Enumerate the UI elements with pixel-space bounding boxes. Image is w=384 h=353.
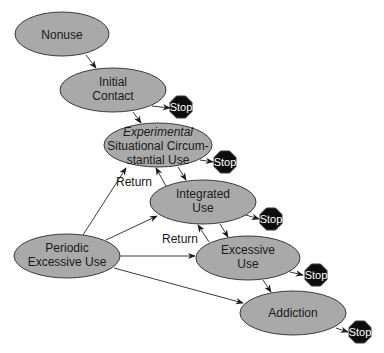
node-experimental-line1: Experimental — [123, 125, 193, 139]
stop-sign-experimental: Stop — [214, 151, 237, 173]
edge-addiction-to-stop — [336, 328, 348, 332]
return-label-integrated-to-experimental: Return — [116, 175, 152, 189]
node-addiction: Addiction — [240, 291, 346, 335]
edge-periodic-to-integrated — [106, 216, 157, 240]
edge-initial-to-stop — [152, 106, 170, 108]
return-label-excessive-to-integrated: Return — [162, 232, 198, 246]
stop-sign-initial: Stop — [170, 96, 193, 118]
node-experimental-line3: stantial Use — [127, 153, 190, 167]
node-periodic-excessive-use: Periodic Excessive Use — [14, 234, 120, 278]
node-nonuse-label: Nonuse — [41, 28, 83, 42]
stop-label: Stop — [170, 101, 193, 113]
edge-initial-to-experimental — [133, 112, 141, 123]
node-excessive-use: Excessive Use — [196, 236, 300, 280]
edge-excessive-to-addiction — [263, 280, 271, 292]
node-addiction-label: Addiction — [268, 306, 317, 320]
stop-label: Stop — [305, 269, 328, 281]
edge-excessive-return-to-integrated — [198, 225, 209, 242]
stop-sign-integrated: Stop — [260, 208, 283, 230]
node-initial-contact-line2: Contact — [92, 89, 134, 103]
node-integrated-use: Integrated Use — [150, 180, 256, 224]
edge-experimental-to-integrated — [178, 167, 186, 180]
stop-sign-addiction: Stop — [349, 321, 372, 343]
node-initial-contact-line1: Initial — [99, 75, 127, 89]
node-initial-contact: Initial Contact — [60, 68, 166, 112]
node-integrated-line2: Use — [192, 201, 214, 215]
edge-excessive-to-stop — [290, 272, 303, 275]
node-nonuse: Nonuse — [15, 12, 109, 56]
edge-integrated-to-excessive — [220, 224, 228, 237]
node-experimental-line2: Situational Circum- — [107, 139, 208, 153]
substance-use-stages-diagram: Nonuse Initial Contact Experimental Situ… — [0, 0, 384, 353]
node-periodic-line1: Periodic — [45, 241, 88, 255]
edge-integrated-to-stop — [246, 215, 259, 219]
edge-nonuse-to-initial — [86, 55, 96, 68]
node-periodic-line2: Excessive Use — [28, 255, 107, 269]
stop-label: Stop — [349, 326, 372, 338]
node-integrated-line1: Integrated — [176, 187, 230, 201]
node-excessive-line2: Use — [237, 257, 259, 271]
stop-label: Stop — [214, 156, 237, 168]
edge-integrated-return-to-experimental — [156, 168, 166, 186]
node-experimental: Experimental Situational Circum- stantia… — [104, 123, 212, 167]
stop-sign-excessive: Stop — [305, 264, 328, 286]
node-excessive-line1: Excessive — [221, 243, 275, 257]
stop-label: Stop — [260, 213, 283, 225]
edge-experimental-to-stop — [200, 160, 213, 162]
